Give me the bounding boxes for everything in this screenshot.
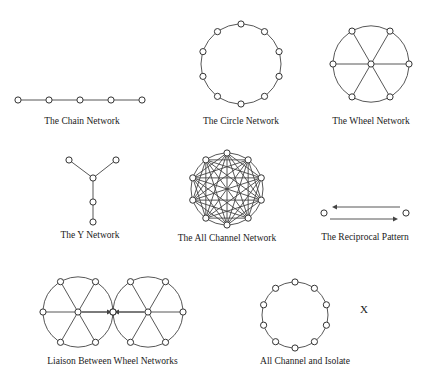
ring-node [214, 28, 220, 34]
ring-edge [204, 79, 215, 94]
ring-node [203, 215, 209, 221]
caption-wheel-network: The Wheel Network [332, 116, 409, 126]
ring-edge [220, 98, 238, 104]
reciprocal-arrow-1-head [393, 216, 398, 221]
wheel-rim-node [406, 60, 412, 66]
diagram-liaison-between-wheel-networks [20, 272, 205, 354]
link-edge [95, 161, 113, 175]
ring-edge [204, 33, 215, 48]
wheel-rim-edge [168, 315, 183, 341]
ring-edge [298, 343, 312, 347]
diagram-all-channel-and-isolate [245, 276, 365, 354]
network-node [46, 96, 52, 102]
wheel-hub-node [75, 308, 81, 314]
ring-edge [317, 290, 325, 302]
ring-node [190, 174, 196, 180]
wheel-rim-edge [63, 277, 93, 280]
ring-node [224, 221, 230, 227]
network-node [90, 198, 96, 204]
network-node [77, 96, 83, 102]
panel-reciprocal-pattern: The Reciprocal Pattern [300, 190, 430, 242]
ring-edge [244, 98, 262, 104]
ring-node [276, 48, 282, 54]
caption-y-network: The Y Network [61, 230, 120, 240]
wheel-spoke-edge [373, 33, 389, 61]
link-edge [71, 161, 90, 175]
network-node [403, 209, 409, 215]
ring-node [323, 322, 329, 328]
ring-node [292, 278, 298, 284]
diagram-y-network [20, 146, 160, 228]
reciprocal-arrow-0-head [332, 204, 337, 209]
isolate-node-marker: X [360, 303, 368, 315]
wheel-rim-node [92, 278, 98, 284]
wheel-hub-node [368, 60, 374, 66]
ring-edge [244, 24, 262, 30]
ring-edge [265, 290, 273, 302]
caption-all-channel-and-isolate: All Channel and Isolate [260, 356, 350, 366]
wheel-rim-edge [133, 343, 163, 346]
wheel-rim-node [127, 278, 133, 284]
ring-node [323, 301, 329, 307]
wheel-spoke-edge [354, 66, 370, 94]
wheel-rim-edge [393, 67, 409, 95]
panel-circle-network: The Circle Network [181, 10, 301, 126]
ring-node [261, 93, 267, 99]
caption-liaison-between-wheel-networks: Liaison Between Wheel Networks [47, 356, 177, 366]
wheel-spoke-edge [150, 314, 164, 339]
wheel-rim-edge [355, 98, 388, 102]
wheel-rim-node [349, 28, 355, 34]
wheel-rim-node [330, 60, 336, 66]
caption-circle-network: The Circle Network [203, 116, 279, 126]
diagram-reciprocal-pattern [300, 196, 430, 230]
wheel-rim-edge [333, 67, 349, 95]
wheel-rim-edge [393, 32, 409, 60]
wheel-spoke-edge [132, 284, 146, 309]
network-node [90, 218, 96, 224]
ring-node [245, 156, 251, 162]
network-patterns-figure: The Chain NetworkThe Circle NetworkThe W… [0, 0, 432, 372]
caption-chain-network: The Chain Network [44, 116, 119, 126]
wheel-spoke-edge [62, 314, 76, 339]
wheel-rim-node [127, 339, 133, 345]
ring-node [273, 338, 279, 344]
network-node [321, 209, 327, 215]
wheel-rim-node [57, 339, 63, 345]
ring-edge [262, 307, 263, 321]
wheel-rim-node [162, 339, 168, 345]
ring-edge [267, 79, 278, 94]
ring-edge [327, 307, 328, 321]
wheel-hub-node [145, 308, 151, 314]
ring-edge [267, 33, 278, 48]
ring-node [261, 322, 267, 328]
ring-edge [220, 24, 238, 30]
wheel-spoke-edge [80, 314, 94, 339]
diagram-chain-network [2, 64, 162, 114]
ring-node [245, 215, 251, 221]
ring-node [258, 197, 264, 203]
ring-node [261, 28, 267, 34]
wheel-rim-node [162, 278, 168, 284]
ring-edge [191, 180, 192, 196]
wheel-rim-node [387, 28, 393, 34]
network-node [113, 156, 119, 162]
wheel-rim-edge [133, 277, 163, 280]
liaison-node [110, 308, 116, 314]
ring-node [273, 285, 279, 291]
ring-edge [317, 328, 325, 340]
network-node [66, 156, 72, 162]
ring-node [238, 20, 244, 26]
panel-wheel-network: The Wheel Network [312, 10, 430, 126]
ring-edge [265, 328, 273, 340]
network-node [108, 96, 114, 102]
caption-reciprocal-pattern: The Reciprocal Pattern [321, 232, 409, 242]
wheel-rim-edge [168, 283, 183, 309]
ring-node [224, 149, 230, 155]
ring-edge [201, 54, 202, 73]
wheel-rim-node [349, 93, 355, 99]
panel-all-channel-and-isolate: All Channel and Isolate [245, 272, 365, 366]
wheel-rim-edge [63, 343, 93, 346]
ring-node [261, 301, 267, 307]
ring-node [190, 197, 196, 203]
panel-y-network: The Y Network [20, 140, 160, 240]
